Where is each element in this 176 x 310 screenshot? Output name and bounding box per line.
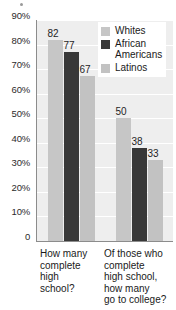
legend-item: African Americans	[101, 38, 162, 61]
y-tick-label: 50%	[12, 109, 30, 119]
y-tick-label: 80%	[12, 36, 30, 46]
top-artifact-speck	[20, 3, 23, 6]
bar-value-label: 38	[132, 136, 143, 147]
bar-value-label: 77	[64, 40, 75, 51]
legend-label: Latinos	[115, 62, 147, 74]
category-caption: Of those who complete high school, how m…	[104, 248, 176, 306]
y-tick-label: 0	[25, 232, 30, 242]
legend-swatch-icon	[101, 27, 110, 36]
bar-value-label: 50	[116, 106, 127, 117]
bar-value-label: 82	[48, 28, 59, 39]
legend-swatch-icon	[101, 40, 110, 49]
y-tick-label: 40%	[12, 134, 30, 144]
y-tick-label: 70%	[12, 60, 30, 70]
bar-value-label: 67	[80, 64, 91, 75]
y-tick-label: 90%	[12, 11, 30, 21]
y-tick-label: 60%	[12, 85, 30, 95]
legend-item: Whites	[101, 25, 162, 37]
legend: WhitesAfrican AmericansLatinos	[98, 22, 166, 77]
legend-label: African Americans	[115, 38, 162, 61]
category-caption: How many complete high school?	[40, 248, 102, 294]
bar-value-label: 33	[148, 148, 159, 159]
bar-chart: 90%80%70%60%50%40%30%20%10%0 82776750383…	[0, 0, 176, 310]
legend-swatch-icon	[101, 64, 110, 73]
y-tick-label: 10%	[12, 207, 30, 217]
legend-label: Whites	[115, 25, 146, 37]
y-tick-label: 20%	[12, 183, 30, 193]
y-tick-label: 30%	[12, 158, 30, 168]
y-axis: 90%80%70%60%50%40%30%20%10%0	[0, 16, 33, 242]
category-captions: How many complete high school?Of those w…	[36, 248, 176, 308]
legend-item: Latinos	[101, 62, 162, 74]
